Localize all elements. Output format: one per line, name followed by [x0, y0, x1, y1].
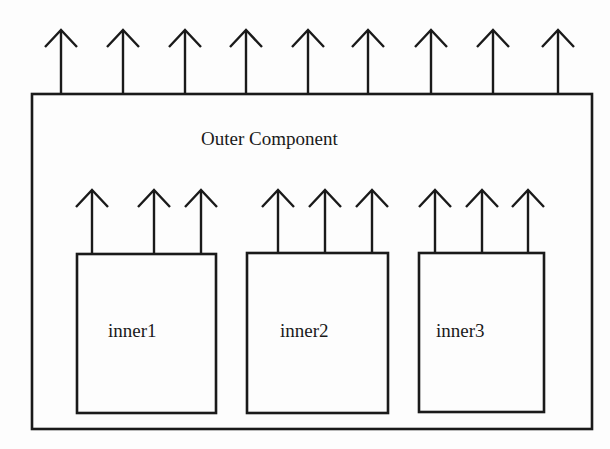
outer-output-arrow-icon — [292, 30, 324, 94]
outer-output-arrow-icon — [230, 30, 262, 94]
inner3-output-arrow-icon — [512, 190, 544, 253]
diagram-canvas: Outer Component inner1 inner2 inner3 — [0, 0, 610, 449]
outer-output-arrow-icon — [477, 30, 509, 94]
inner1-output-arrow-icon — [185, 190, 217, 254]
outer-output-arrow-icon — [169, 30, 201, 94]
outer-output-arrow-icon — [45, 30, 77, 94]
inner2-label: inner2 — [280, 320, 329, 342]
inner3-output-arrow-icon — [419, 190, 451, 253]
inner1-output-arrow-icon — [138, 190, 170, 254]
inner1-output-arrow-icon — [76, 190, 108, 254]
outer-output-arrow-icon — [415, 30, 447, 94]
inner2-output-arrow-icon — [356, 190, 388, 253]
inner1-label: inner1 — [108, 320, 157, 342]
outer-output-arrow-icon — [542, 30, 574, 94]
outer-output-arrow-icon — [107, 30, 139, 94]
outer-output-arrow-icon — [352, 30, 384, 94]
diagram-graphics — [0, 0, 610, 449]
inner3-output-arrow-icon — [466, 190, 498, 253]
inner2-output-arrow-icon — [262, 190, 294, 253]
outer-component-label: Outer Component — [201, 128, 338, 150]
inner3-label: inner3 — [436, 320, 485, 342]
inner2-output-arrow-icon — [309, 190, 341, 253]
